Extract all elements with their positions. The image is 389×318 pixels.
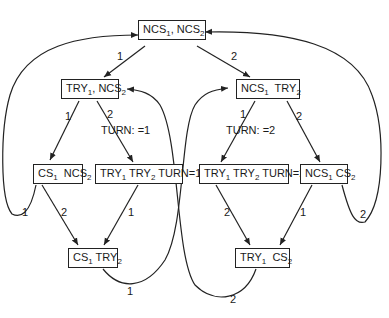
edge-label-n1-n3: 1 [65,110,71,122]
state-cs1-try2: CS1 TRY2 [68,248,118,268]
subscript: 2 [288,257,292,266]
edge-n0-n2 [197,46,250,77]
edge-label-n3-n0: 1 [22,206,28,218]
subscript: 2 [151,173,155,182]
edge-label-n2-n6: 2 [296,110,302,122]
subscript: 2 [87,173,91,182]
state-ncs1-cs2: NCS1 CS2 [300,164,348,184]
edge-label-n7-n2: 1 [127,285,133,297]
state-try1-try2-turn2: TRY1 TRY2 TURN=2 [199,164,289,184]
edge-label-n6-n8: 1 [300,206,306,218]
edge-label-n1-n4: 2 [107,108,113,120]
subscript: 2 [351,173,355,182]
edge-label-n6-n0: 2 [360,208,366,220]
state-ncs1-ncs2: NCS1, NCS2 [138,20,206,40]
state-try1-cs2: TRY1 CS2 [235,248,290,268]
edge-n0-n1 [104,46,145,77]
state-cs1-ncs2: CS1 NCS2 [33,164,83,184]
subscript: 1 [262,257,266,266]
edge-label-n3-n7: 2 [61,206,67,218]
edge-n3-n7 [42,185,78,245]
edge-label-n5-n8: 2 [224,206,230,218]
subscript: 1 [122,173,126,182]
edge-label-n0-n2: 2 [231,50,237,62]
edges-layer [0,0,389,318]
state-try1-ncs2: TRY1, NCS2 [61,79,119,99]
edge-label-n0-n1: 1 [117,50,123,62]
subscript: 2 [117,257,121,266]
subscript: 2 [296,88,300,97]
edge-label-n4-n7: 1 [128,206,134,218]
subscript: 1 [88,257,92,266]
subscript: 1 [264,88,268,97]
subscript: 1 [226,173,230,182]
turn-assign-1: TURN: =1 [101,124,150,136]
subscript: 2 [122,88,126,97]
subscript: 1 [53,173,57,182]
state-ncs1-try2: NCS1 TRY2 [236,79,300,99]
subscript: 1 [166,29,170,38]
subscript: 2 [255,173,259,182]
subscript: 1 [88,88,92,97]
subscript: 1 [328,173,332,182]
subscript: 2 [200,29,204,38]
edge-label-n2-n5: 1 [240,108,246,120]
edge-n5-n8 [216,185,250,245]
edge-n2-n6 [287,101,320,162]
state-try1-try2-turn1: TRY1 TRY2 TURN=1 [95,164,183,184]
edge-label-n8-n1: 2 [230,293,236,305]
edge-n6-n8 [280,185,312,245]
turn-assign-2: TURN: =2 [226,124,275,136]
